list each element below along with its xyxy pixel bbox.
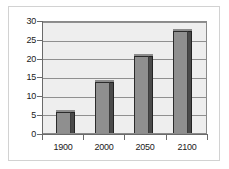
bar-1900-front [56,112,71,133]
x-tick-label-2050: 2050 [127,142,163,152]
bar-2050 [134,54,153,133]
x-tick-4 [207,135,208,140]
bar-chart-figure: 30 25 20 15 10 5 0 1900 2000 2050 2100 [0,0,229,169]
bar-2100 [173,29,192,133]
gridline-30 [43,22,206,23]
y-axis-line [42,21,43,135]
bar-1900 [56,110,75,133]
bar-2100-front [173,31,188,133]
x-tick-label-2000: 2000 [86,142,122,152]
bar-2050-side [149,56,153,133]
y-axis-tick-labels: 30 25 20 15 10 5 0 [8,0,36,169]
y-tick-10 [37,96,42,97]
y-tick-25 [37,40,42,41]
y-tick-label-25: 25 [12,36,36,45]
plot-area [42,21,207,134]
y-tick-label-5: 5 [12,111,36,120]
x-tick-0 [42,135,43,140]
y-tick-20 [37,59,42,60]
y-tick-15 [37,77,42,78]
x-axis-line [42,134,208,135]
bar-2050-front [134,56,149,133]
y-tick-label-30: 30 [12,17,36,26]
y-tick-30 [37,21,42,22]
bar-2000-side [110,82,114,133]
y-tick-label-0: 0 [12,130,36,139]
x-tick-2 [124,135,125,140]
bar-2100-side [188,31,192,133]
x-tick-1 [83,135,84,140]
y-tick-label-20: 20 [12,55,36,64]
y-tick-label-10: 10 [12,92,36,101]
bar-1900-side [71,112,75,133]
y-tick-label-15: 15 [12,73,36,82]
x-tick-label-2100: 2100 [169,142,205,152]
bar-2000 [95,80,114,133]
x-tick-label-1900: 1900 [45,142,81,152]
y-tick-5 [37,115,42,116]
x-tick-3 [166,135,167,140]
bar-2000-front [95,82,110,133]
